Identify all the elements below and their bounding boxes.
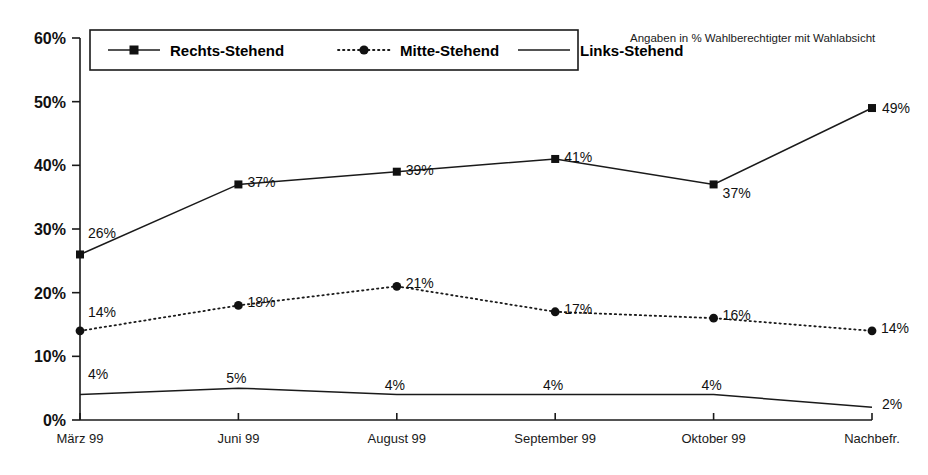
x-axis-ticks xyxy=(80,413,872,420)
chart-legend[interactable]: Rechts-StehendMitte-StehendLinks-Stehend xyxy=(90,30,683,70)
x-axis-category-label: Nachbefr. xyxy=(844,431,900,446)
y-axis-tick-label: 10% xyxy=(34,348,66,365)
data-point-marker xyxy=(393,168,401,176)
data-point-marker xyxy=(392,282,401,291)
data-point-label: 49% xyxy=(882,100,910,116)
legend-item-label[interactable]: Rechts-Stehend xyxy=(170,42,284,59)
line-chart: Angaben in % Wahlberechtigter mit Wahlab… xyxy=(0,0,928,475)
data-point-label: 14% xyxy=(881,320,909,336)
data-point-marker xyxy=(551,307,560,316)
data-point-label: 37% xyxy=(723,185,751,201)
data-point-label: 2% xyxy=(882,396,902,412)
data-point-marker xyxy=(234,180,242,188)
series-lines xyxy=(80,108,872,407)
data-point-marker xyxy=(710,180,718,188)
data-point-label: 5% xyxy=(226,370,246,386)
x-axis-category-label: Juni 99 xyxy=(217,431,259,446)
series-line xyxy=(80,286,872,331)
series-point-labels: 26%37%39%41%37%49%14%18%21%17%16%14%4%5%… xyxy=(88,100,910,412)
data-point-marker xyxy=(709,314,718,323)
data-point-label: 41% xyxy=(564,149,592,165)
data-point-label: 4% xyxy=(88,366,108,382)
legend-marker-sample xyxy=(359,45,368,54)
series-line xyxy=(80,388,872,407)
x-axis-category-label: September 99 xyxy=(514,431,596,446)
legend-item-label[interactable]: Links-Stehend xyxy=(580,42,683,59)
x-axis-category-label: August 99 xyxy=(368,431,427,446)
data-point-marker xyxy=(868,104,876,112)
axes xyxy=(80,38,872,420)
data-point-label: 26% xyxy=(88,225,116,241)
data-point-marker xyxy=(76,326,85,335)
data-point-label: 16% xyxy=(723,307,751,323)
legend-marker-sample xyxy=(130,46,139,55)
data-point-label: 39% xyxy=(406,162,434,178)
y-axis-tick-label: 40% xyxy=(34,157,66,174)
data-point-marker xyxy=(234,301,243,310)
data-point-label: 4% xyxy=(543,377,563,393)
legend-box xyxy=(90,30,578,70)
y-axis-ticks: 0%10%20%30%40%50%60% xyxy=(34,30,80,429)
chart-root: Angaben in % Wahlberechtigter mit Wahlab… xyxy=(0,0,928,475)
data-point-marker xyxy=(76,250,84,258)
data-point-label: 17% xyxy=(564,301,592,317)
x-axis-category-label: März 99 xyxy=(57,431,104,446)
y-axis-tick-label: 50% xyxy=(34,94,66,111)
y-axis-tick-label: 0% xyxy=(43,412,66,429)
y-axis-tick-label: 30% xyxy=(34,221,66,238)
data-point-label: 4% xyxy=(385,377,405,393)
series-line xyxy=(80,108,872,254)
x-axis-category-labels: März 99Juni 99August 99September 99Oktob… xyxy=(57,431,900,446)
x-axis-category-label: Oktober 99 xyxy=(681,431,745,446)
data-point-marker xyxy=(551,155,559,163)
data-point-label: 4% xyxy=(701,377,721,393)
data-point-label: 37% xyxy=(247,174,275,190)
legend-item-label[interactable]: Mitte-Stehend xyxy=(400,42,499,59)
y-axis-tick-label: 60% xyxy=(34,30,66,47)
data-point-label: 21% xyxy=(406,275,434,291)
series-markers xyxy=(76,104,877,335)
data-point-label: 18% xyxy=(247,294,275,310)
data-point-marker xyxy=(868,326,877,335)
y-axis-tick-label: 20% xyxy=(34,285,66,302)
data-point-label: 14% xyxy=(88,304,116,320)
